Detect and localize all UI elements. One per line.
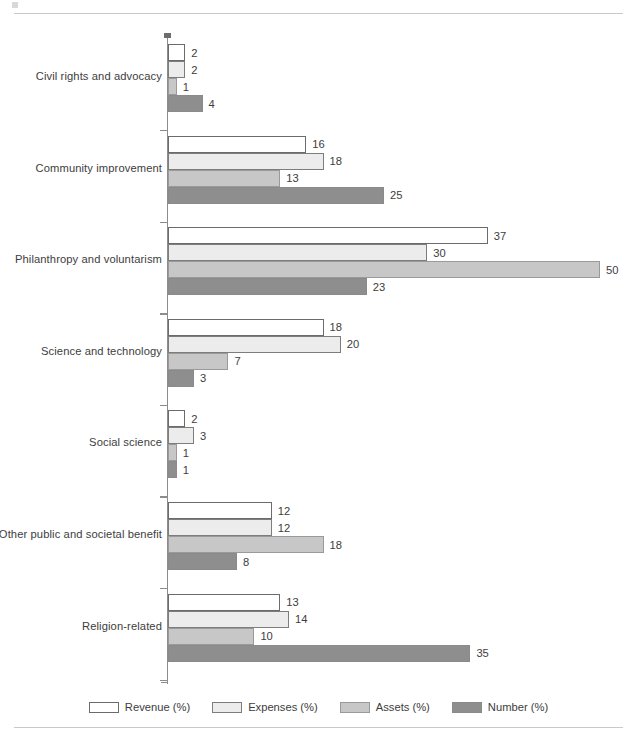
legend-label: Number (%) (488, 701, 548, 713)
chart-page: Civil rights and advocacy2214Community i… (0, 0, 637, 740)
bar-2 (168, 628, 254, 645)
bar-2 (168, 444, 177, 461)
bar-value-label: 2 (191, 413, 197, 425)
bar-value-label: 37 (494, 230, 506, 242)
bar-3 (168, 95, 203, 112)
bar-value-label: 1 (183, 447, 189, 459)
bar-row: 8 (168, 553, 637, 570)
category-group: Religion-related13141035 (0, 594, 637, 662)
bar-row: 35 (168, 645, 637, 662)
bar-1 (168, 61, 185, 78)
bar-value-label: 18 (330, 321, 342, 333)
bar-3 (168, 645, 470, 662)
bar-row: 16 (168, 136, 637, 153)
bar-value-label: 18 (330, 539, 342, 551)
bar-row: 4 (168, 95, 637, 112)
axis-bottom-cap (161, 682, 168, 683)
bar-row: 10 (168, 628, 637, 645)
bottom-divider-rule (14, 727, 623, 728)
bar-0 (168, 227, 488, 244)
bar-row: 3 (168, 427, 637, 444)
legend-swatch-icon (340, 702, 370, 713)
bar-row: 18 (168, 536, 637, 553)
category-label: Community improvement (36, 162, 162, 174)
category-label: Civil rights and advocacy (36, 70, 162, 82)
bar-value-label: 16 (312, 138, 324, 150)
category-label: Other public and societal benefit (0, 528, 162, 540)
bar-3 (168, 461, 177, 478)
bar-0 (168, 594, 280, 611)
legend-item[interactable]: Expenses (%) (212, 701, 318, 713)
category-label: Science and technology (41, 345, 162, 357)
bar-row: 14 (168, 611, 637, 628)
bar-row: 37 (168, 227, 637, 244)
bar-0 (168, 410, 185, 427)
bar-2 (168, 170, 280, 187)
bar-value-label: 30 (433, 247, 445, 259)
legend-item[interactable]: Assets (%) (340, 701, 430, 713)
bar-value-label: 2 (191, 64, 197, 76)
category-label: Social science (89, 436, 162, 448)
category-group: Social science2311 (0, 410, 637, 478)
bar-3 (168, 187, 384, 204)
bar-1 (168, 519, 272, 536)
bar-row: 2 (168, 410, 637, 427)
bar-value-label: 3 (200, 430, 206, 442)
bar-row: 13 (168, 170, 637, 187)
axis-group-tick (160, 222, 168, 223)
bar-row: 18 (168, 319, 637, 336)
axis-group-tick (160, 405, 168, 406)
bar-0 (168, 44, 185, 61)
bar-value-label: 23 (373, 281, 385, 293)
bar-value-label: 8 (243, 556, 249, 568)
bar-row: 3 (168, 370, 637, 387)
category-group: Science and technology182073 (0, 319, 637, 387)
bar-value-label: 13 (286, 596, 298, 608)
bar-2 (168, 536, 324, 553)
bar-0 (168, 319, 324, 336)
bar-2 (168, 78, 177, 95)
axis-group-tick (160, 313, 168, 314)
bar-1 (168, 336, 341, 353)
bar-value-label: 13 (286, 172, 298, 184)
bar-value-label: 25 (390, 189, 402, 201)
bar-value-label: 10 (260, 630, 272, 642)
bar-value-label: 2 (191, 47, 197, 59)
bar-2 (168, 353, 228, 370)
legend-swatch-icon (212, 702, 242, 713)
bar-2 (168, 261, 600, 278)
bar-row: 50 (168, 261, 637, 278)
legend-swatch-icon (452, 702, 482, 713)
bar-value-label: 50 (606, 264, 618, 276)
category-label: Philanthropy and voluntarism (15, 253, 162, 265)
plot-area: Civil rights and advocacy2214Community i… (0, 0, 637, 695)
axis-group-tick (160, 680, 168, 681)
bar-1 (168, 244, 427, 261)
chart-legend: Revenue (%)Expenses (%)Assets (%)Number … (0, 697, 637, 717)
legend-label: Expenses (%) (248, 701, 318, 713)
axis-group-tick (160, 130, 168, 131)
bar-row: 20 (168, 336, 637, 353)
bar-value-label: 14 (295, 613, 307, 625)
bar-row: 12 (168, 502, 637, 519)
legend-item[interactable]: Number (%) (452, 701, 548, 713)
bar-1 (168, 427, 194, 444)
bar-value-label: 7 (234, 355, 240, 367)
bar-row: 2 (168, 44, 637, 61)
bar-value-label: 1 (183, 81, 189, 93)
bar-row: 13 (168, 594, 637, 611)
bar-3 (168, 278, 367, 295)
bar-0 (168, 502, 272, 519)
category-label: Religion-related (82, 620, 162, 632)
bar-row: 2 (168, 61, 637, 78)
bar-row: 7 (168, 353, 637, 370)
bar-row: 25 (168, 187, 637, 204)
bar-row: 18 (168, 153, 637, 170)
bar-value-label: 1 (183, 464, 189, 476)
legend-label: Revenue (%) (125, 701, 190, 713)
axis-group-tick (160, 588, 168, 589)
category-group: Civil rights and advocacy2214 (0, 44, 637, 112)
category-group: Other public and societal benefit1212188 (0, 502, 637, 570)
bar-row: 12 (168, 519, 637, 536)
legend-item[interactable]: Revenue (%) (89, 701, 190, 713)
